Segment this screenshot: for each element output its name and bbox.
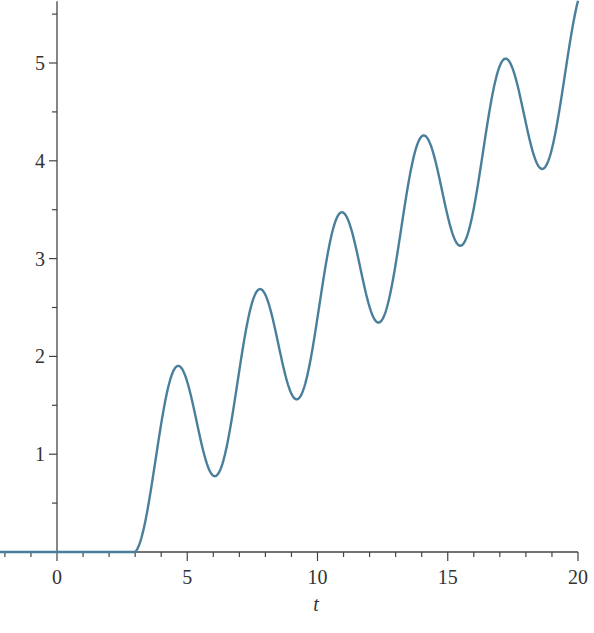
y-tick-label: 1 (35, 443, 45, 465)
y-tick-label: 4 (35, 150, 45, 172)
data-line (0, 1, 578, 552)
x-tick-label: 20 (568, 566, 588, 588)
y-tick-label: 3 (35, 248, 45, 270)
line-chart: 12345 05101520 t (0, 0, 594, 633)
y-axis: 12345 (35, 1, 57, 552)
x-axis-title: t (313, 593, 319, 615)
x-tick-label: 0 (52, 566, 62, 588)
y-tick-label: 2 (35, 345, 45, 367)
x-tick-label: 15 (438, 566, 458, 588)
x-tick-label: 10 (308, 566, 328, 588)
x-axis: 05101520 (0, 552, 588, 588)
x-tick-label: 5 (182, 566, 192, 588)
y-tick-label: 5 (35, 52, 45, 74)
